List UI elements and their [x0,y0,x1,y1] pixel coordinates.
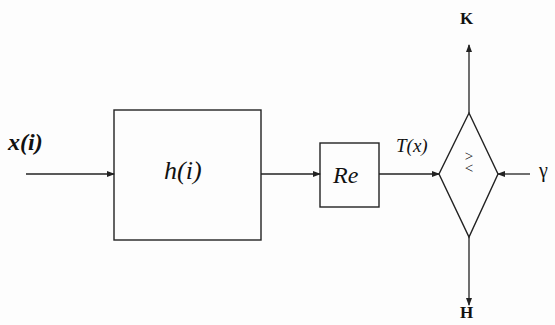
comparator-symbol: > < [461,150,477,174]
input-label: x(i) [8,130,43,154]
less-than-symbol: < [461,162,477,174]
filter-label: h(i) [164,158,202,184]
real-part-label: Re [333,163,358,187]
block-diagram: x(i) h(i) Re T(x) > < γ K H [0,0,555,325]
output-k-label: K [460,10,473,27]
output-h-label: H [460,304,473,321]
signal-label: T(x) [396,136,428,155]
threshold-label: γ [539,160,548,180]
